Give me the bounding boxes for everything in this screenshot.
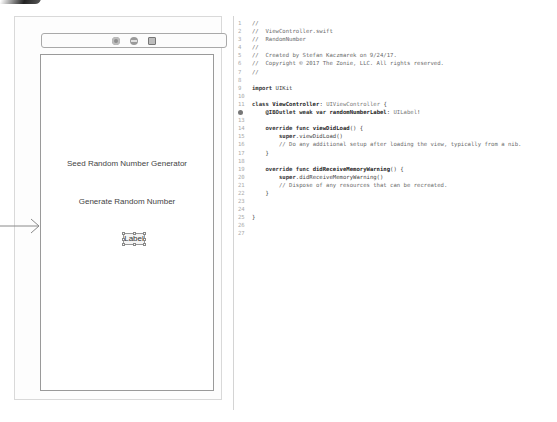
line-number: 5 bbox=[238, 51, 252, 59]
resize-handle[interactable] bbox=[122, 232, 125, 235]
code-line[interactable]: 24 bbox=[238, 205, 521, 213]
line-number: 15 bbox=[238, 132, 252, 140]
keyword: class bbox=[252, 101, 269, 107]
initial-view-controller-arrow[interactable] bbox=[0, 218, 40, 234]
scene-dock[interactable] bbox=[41, 33, 227, 48]
code-line[interactable]: 19 override func didReceiveMemoryWarning… bbox=[238, 165, 521, 173]
code-line[interactable]: 7// bbox=[238, 68, 521, 76]
view-controller-icon[interactable] bbox=[112, 37, 120, 45]
exit-icon[interactable] bbox=[148, 37, 156, 45]
code-line[interactable]: @IBOutlet weak var randomNumberLabel: UI… bbox=[238, 108, 521, 116]
type-name: UILabel bbox=[393, 109, 417, 115]
code-text: } bbox=[252, 214, 255, 220]
code-line[interactable]: 27 bbox=[238, 229, 521, 237]
comment-text: // Dispose of any resources that can be … bbox=[279, 182, 447, 188]
resize-handle[interactable] bbox=[133, 232, 136, 235]
code-line[interactable]: 5// Created by Stefan Kaczmarek on 9/24/… bbox=[238, 51, 521, 59]
line-number: 19 bbox=[238, 165, 252, 173]
resize-handle[interactable] bbox=[122, 238, 125, 241]
code-lines[interactable]: 1//2// ViewController.swift3// RandomNum… bbox=[238, 19, 521, 238]
line-number: 17 bbox=[238, 149, 252, 157]
outlet-dot-icon[interactable] bbox=[238, 110, 243, 115]
code-line[interactable]: 3// RandomNumber bbox=[238, 35, 521, 43]
line-content: override func didReceiveMemoryWarning() … bbox=[252, 165, 404, 173]
code-text: UIKit bbox=[272, 85, 292, 91]
line-content: import UIKit bbox=[252, 84, 292, 92]
line-content: override func viewDidLoad() { bbox=[252, 124, 363, 132]
code-line[interactable]: 8 bbox=[238, 76, 521, 84]
code-line[interactable]: 26 bbox=[238, 221, 521, 229]
code-line[interactable]: 6// Copyright © 2017 The Zonie, LLC. All… bbox=[238, 59, 521, 67]
code-line[interactable]: 1// bbox=[238, 19, 521, 27]
indent bbox=[252, 125, 265, 131]
code-line[interactable]: 9import UIKit bbox=[238, 84, 521, 92]
comment-text: // ViewController.swift bbox=[252, 28, 333, 34]
comment-text: // bbox=[252, 20, 259, 26]
line-content: // Do any additional setup after loading… bbox=[252, 140, 521, 148]
code-line[interactable]: 18 bbox=[238, 157, 521, 165]
type-name: UIViewController bbox=[326, 101, 380, 107]
line-number: 14 bbox=[238, 124, 252, 132]
code-text: } bbox=[265, 190, 268, 196]
line-content: // ViewController.swift bbox=[252, 27, 333, 35]
code-line[interactable]: 13 bbox=[238, 116, 521, 124]
keyword: import bbox=[252, 85, 272, 91]
line-content: // bbox=[252, 68, 259, 76]
indent bbox=[252, 141, 279, 147]
indent bbox=[252, 133, 279, 139]
code-line[interactable]: 11class ViewController: UIViewController… bbox=[238, 100, 521, 108]
random-number-label[interactable]: Label bbox=[123, 233, 145, 245]
outlet-connection-icon[interactable] bbox=[238, 108, 252, 116]
code-line[interactable]: 17 } bbox=[238, 149, 521, 157]
line-content: // Copyright © 2017 The Zonie, LLC. All … bbox=[252, 59, 444, 67]
line-number: 27 bbox=[238, 229, 252, 237]
identifier: didReceiveMemoryWarning bbox=[309, 166, 390, 172]
code-editor[interactable]: 1//2// ViewController.swift3// RandomNum… bbox=[233, 16, 557, 410]
code-text: { bbox=[380, 101, 387, 107]
line-content: super.didReceiveMemoryWarning() bbox=[252, 173, 383, 181]
code-line[interactable]: 10 bbox=[238, 92, 521, 100]
code-text: () { bbox=[350, 125, 363, 131]
code-text: } bbox=[265, 150, 268, 156]
code-line[interactable]: 21 // Dispose of any resources that can … bbox=[238, 181, 521, 189]
code-line[interactable]: 16 // Do any additional setup after load… bbox=[238, 140, 521, 148]
line-number: 10 bbox=[238, 92, 252, 100]
line-number: 2 bbox=[238, 27, 252, 35]
line-content: // RandomNumber bbox=[252, 35, 306, 43]
indent bbox=[252, 174, 279, 180]
code-line[interactable]: 14 override func viewDidLoad() { bbox=[238, 124, 521, 132]
code-text: .viewDidLoad() bbox=[296, 133, 343, 139]
seed-random-button[interactable]: Seed Random Number Generator bbox=[41, 159, 213, 168]
code-line[interactable]: 22 } bbox=[238, 189, 521, 197]
view-controller-scene[interactable]: Seed Random Number Generator Generate Ra… bbox=[40, 54, 214, 391]
line-content: } bbox=[252, 213, 255, 221]
comment-text: // Do any additional setup after loading… bbox=[279, 141, 521, 147]
comment-text: // RandomNumber bbox=[252, 36, 306, 42]
code-line[interactable]: 2// ViewController.swift bbox=[238, 27, 521, 35]
resize-handle[interactable] bbox=[143, 232, 146, 235]
line-number: 16 bbox=[238, 140, 252, 148]
line-content: // bbox=[252, 19, 259, 27]
first-responder-icon[interactable] bbox=[130, 37, 138, 45]
line-number: 13 bbox=[238, 116, 252, 124]
code-line[interactable]: 4// bbox=[238, 43, 521, 51]
comment-text: // bbox=[252, 69, 259, 75]
code-line[interactable]: 20 super.didReceiveMemoryWarning() bbox=[238, 173, 521, 181]
window-edge-shadow bbox=[0, 0, 41, 4]
identifier: viewDidLoad bbox=[309, 125, 349, 131]
code-text: ! bbox=[417, 109, 420, 115]
code-line[interactable]: 25} bbox=[238, 213, 521, 221]
resize-handle[interactable] bbox=[143, 243, 146, 246]
line-content: class ViewController: UIViewController { bbox=[252, 100, 387, 108]
resize-handle[interactable] bbox=[133, 243, 136, 246]
resize-handle[interactable] bbox=[122, 243, 125, 246]
resize-handle[interactable] bbox=[143, 238, 146, 241]
line-content: // Dispose of any resources that can be … bbox=[252, 181, 447, 189]
keyword: override func bbox=[265, 125, 309, 131]
line-number: 11 bbox=[238, 100, 252, 108]
code-line[interactable]: 15 super.viewDidLoad() bbox=[238, 132, 521, 140]
code-line[interactable]: 23 bbox=[238, 197, 521, 205]
comment-text: // bbox=[252, 44, 259, 50]
line-number: 8 bbox=[238, 76, 252, 84]
generate-random-button[interactable]: Generate Random Number bbox=[41, 197, 213, 206]
